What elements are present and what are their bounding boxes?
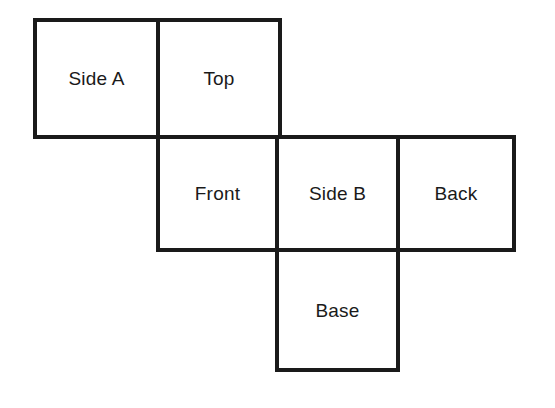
face-side-a: Side A [35, 20, 158, 137]
face-label-top: Top [203, 69, 234, 88]
face-label-side-b: Side B [309, 184, 366, 203]
face-label-back: Back [434, 184, 477, 203]
face-label-front: Front [195, 184, 240, 203]
face-top: Top [158, 20, 280, 137]
face-front: Front [158, 137, 277, 250]
face-label-side-a: Side A [68, 69, 124, 88]
face-label-base: Base [315, 301, 359, 320]
face-side-b: Side B [277, 137, 398, 250]
face-base: Base [277, 250, 398, 370]
cube-net-diagram: Side A Top Front Side B Back Base [0, 0, 555, 408]
face-back: Back [398, 137, 514, 250]
